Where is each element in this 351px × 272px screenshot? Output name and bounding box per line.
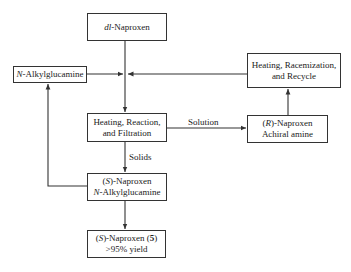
edge-label-solids: Solids <box>129 152 152 163</box>
text: )-Naproxen <box>110 176 151 186</box>
node-s-naproxen-product: (S)-Naproxen (5) >95% yield <box>87 230 166 258</box>
text: ) <box>154 233 157 243</box>
node-label: -Naproxen <box>111 22 149 32</box>
text: )-Naproxen <box>271 118 312 128</box>
node-line-2: Achiral amine <box>262 129 313 140</box>
node-line-2: >95% yield <box>106 244 148 255</box>
node-s-naproxen-salt: (S)-Naproxen N-Alkylglucamine <box>87 173 167 201</box>
node-n-alkylglucamine: N-Alkylglucamine <box>13 66 87 83</box>
node-racemization: Heating, Racemization, and Recycle <box>247 53 341 88</box>
node-dl-naproxen: dl-Naproxen <box>87 13 167 41</box>
node-reaction: Heating, Reaction, and Filtration <box>87 113 167 142</box>
node-line-2: and Filtration <box>103 128 152 139</box>
text: -Alkylglucamine <box>100 187 161 197</box>
node-r-naproxen: (R)-Naproxen Achiral amine <box>247 115 328 143</box>
text: )-Naproxen ( <box>103 233 150 243</box>
node-line-2: and Recycle <box>272 71 316 82</box>
node-line-1: Heating, Reaction, <box>93 117 160 128</box>
node-line-1: Heating, Racemization, <box>252 60 337 71</box>
node-label: -Alkylglucamine <box>23 69 84 79</box>
edge-label-solution: Solution <box>188 117 219 128</box>
